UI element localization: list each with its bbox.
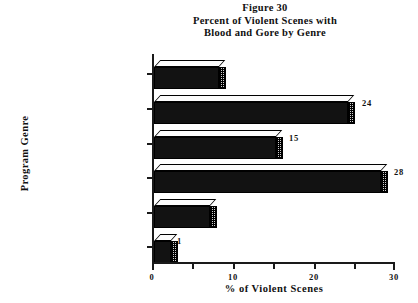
y-tick-music-videos [147,73,152,75]
bar-top-face [154,130,282,137]
chart-title-line-1: Figure 30 [120,2,410,15]
y-axis-title: Program Genre [19,94,30,214]
bar-front-face [154,67,219,89]
bar-front-face [154,137,276,159]
bar-side-face [210,206,217,228]
x-tick-label-20: 20 [309,272,319,282]
bar-front-face [154,206,210,228]
y-tick-comedy-series [147,212,152,214]
bar-top-face [154,95,354,102]
y-tick-movies [147,177,152,179]
bar-side-face [381,171,388,193]
bar-front-face [154,241,171,263]
y-tick-reality-based [147,108,152,110]
x-tick-label-30: 30 [389,272,399,282]
figure-bar-chart: Figure 30 Percent of Violent Scenes with… [0,0,418,303]
bar-side-face [348,102,355,124]
chart-title-line-3: Blood and Gore by Genre [120,27,410,40]
x-tick-5 [192,264,194,269]
x-tick-25 [354,264,356,269]
bar-top-face [154,199,216,206]
chart-title-line-2: Percent of Violent Scenes with [120,15,410,28]
x-tick-label-10: 10 [228,272,238,282]
x-tick-0 [152,264,154,270]
bar-side-face [171,241,178,263]
x-tick-30 [393,264,395,270]
plot-area [152,54,395,264]
bar-front-face [154,102,348,124]
bar-front-face [154,171,381,193]
bar-value-movies: 28 [394,167,404,177]
x-axis-title: % of Violent Scenes [152,283,396,294]
x-tick-15 [273,264,275,269]
bar-top-face [154,164,387,171]
bar-top-face [154,60,225,67]
x-tick-10 [233,264,235,269]
y-axis-line [152,54,154,264]
bar-top-face [154,234,177,241]
x-tick-20 [314,264,316,269]
chart-title: Figure 30 Percent of Violent Scenes with… [120,2,410,40]
x-tick-label-0: 0 [149,272,154,282]
bar-side-face [276,137,283,159]
y-tick-drama-series [147,143,152,145]
bar-side-face [219,67,226,89]
y-tick-children-series [147,246,152,248]
